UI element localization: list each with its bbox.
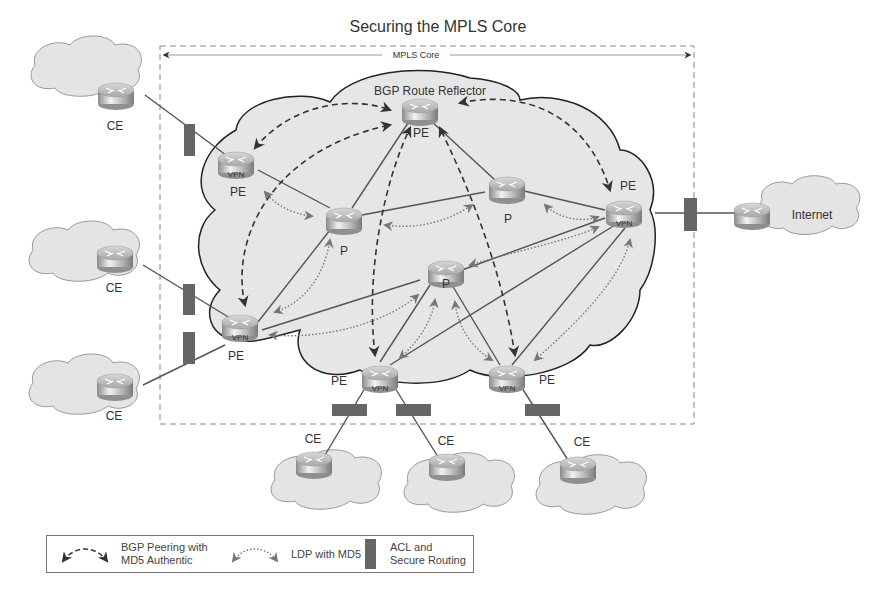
mpls-core-label: MPLS Core — [393, 50, 440, 60]
internet-cloud — [759, 176, 860, 235]
ce-label: CE — [106, 409, 123, 423]
ce-label: CE — [106, 281, 123, 295]
pe-label: PE — [620, 179, 636, 193]
router-p-right[interactable] — [489, 177, 525, 204]
acl-block — [332, 404, 367, 416]
rr-label: PE — [413, 126, 429, 140]
router-ce-5[interactable] — [429, 454, 465, 481]
p-label: P — [340, 244, 348, 258]
ldp-dotted-arrow-icon — [225, 541, 285, 567]
router-ce-2[interactable] — [97, 246, 133, 273]
router-p-left[interactable] — [326, 208, 362, 235]
p-label: P — [442, 277, 450, 291]
pe-label: PE — [331, 374, 347, 388]
router-ce-3[interactable] — [97, 374, 133, 401]
acl-block-icon — [365, 539, 376, 569]
acl-block — [183, 332, 195, 364]
acl-block — [684, 198, 697, 231]
vpn-label: VPN — [499, 384, 516, 393]
legend-bgp: BGP Peering with MD5 Authentic — [55, 536, 208, 572]
legend: BGP Peering with MD5 Authentic LDP with … — [46, 535, 474, 573]
vpn-label: VPN — [228, 170, 245, 179]
bgp-dashed-arrow-icon — [55, 541, 115, 567]
router-ce-4[interactable] — [296, 452, 332, 479]
route-reflector-label: BGP Route Reflector — [374, 84, 486, 98]
network-diagram: MPLS Core — [0, 0, 876, 597]
acl-block — [525, 404, 560, 416]
vpn-label: VPN — [372, 384, 389, 393]
legend-acl-label: ACL and Secure Routing — [390, 541, 466, 567]
acl-block — [396, 404, 431, 416]
pe-label: PE — [539, 373, 555, 387]
ce-label: CE — [107, 119, 124, 133]
router-internet-edge[interactable] — [734, 203, 770, 230]
acl-block — [183, 284, 195, 315]
vpn-label: VPN — [232, 333, 249, 342]
ce-label: CE — [305, 432, 322, 446]
internet-label: Internet — [792, 208, 833, 222]
legend-ldp-label: LDP with MD5 — [291, 548, 361, 561]
ce-label: CE — [438, 434, 455, 448]
router-ce-6[interactable] — [560, 457, 596, 484]
router-ce-1[interactable] — [98, 83, 134, 110]
router-rr[interactable] — [402, 99, 438, 126]
pe-label: PE — [230, 185, 246, 199]
legend-ldp: LDP with MD5 — [225, 536, 361, 572]
legend-bgp-label: BGP Peering with MD5 Authentic — [121, 541, 208, 567]
legend-acl: ACL and Secure Routing — [365, 536, 466, 572]
p-label: P — [504, 212, 512, 226]
pe-label: PE — [228, 349, 244, 363]
vpn-label: VPN — [616, 219, 633, 228]
acl-block — [184, 124, 195, 156]
ce-label: CE — [574, 435, 591, 449]
